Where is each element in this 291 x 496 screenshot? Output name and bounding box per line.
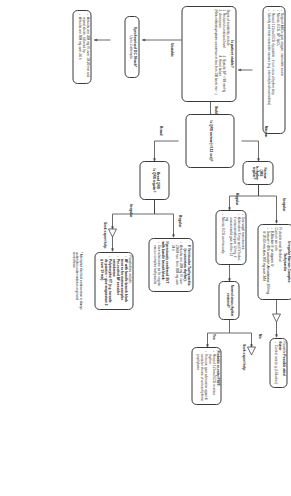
box-irregular-narrow-complex: Irregular Narrow Complex Tachycardia Pro… xyxy=(257,224,291,300)
tachycardia-algorithm: Support ABCs: give oxygen; cannulate a v… xyxy=(0,0,291,496)
vt-drug-list: Amiodarone 300 mg IV over 20-60 min; the… xyxy=(169,242,181,289)
list-item: Give adenosine as for regular narrow com… xyxy=(151,245,159,289)
cardioversion-footnote: * Attempted electrical cardioversion is … xyxy=(70,252,81,310)
box-is-patient-stable: Is patient stable? Signs of instability … xyxy=(181,6,236,102)
list-item: Identify and treat reversible causes (e.… xyxy=(265,13,269,131)
inct-list: β-Blocker IV or digoxin IV If onset < 48… xyxy=(260,228,272,297)
vt-secondary-list: Give adenosine as for regular narrow com… xyxy=(151,242,159,289)
edge-label-yes: Yes xyxy=(211,334,215,340)
edge-label-no: No xyxy=(257,334,261,338)
edge-label-irregular-broad: Irregular xyxy=(128,204,132,217)
possibility-text-1: AF with bundle branch block treat as for… xyxy=(119,259,127,302)
dc-shock-subtitle: Up to 3 attempts xyxy=(127,20,131,75)
narrow-qrs-title-line2: Is rhythm regular? xyxy=(250,165,258,182)
box-synchronised-dc-shock: Synchronised DC Shock* Up to 3 attempts xyxy=(124,16,139,78)
sinus-restored-title: Normal sinus rhythm restored? xyxy=(225,285,233,317)
box-sinus-rhythm-restored: Normal sinus rhythm restored? xyxy=(218,281,239,320)
box-broad-irregular-possibilities: Possibilities include: AF with bundle br… xyxy=(94,252,133,310)
box-narrow-qrs: Narrow QRS Is rhythm regular? xyxy=(242,161,273,185)
vagal-list: Use vagal manoeuvres Adenosine 6 mg rapi… xyxy=(219,214,243,262)
flutter-title-text: Possible atrial flutter xyxy=(277,342,285,376)
list-item: Amiodarone 900 mg over 24 h xyxy=(76,17,80,81)
patient-stable-title: Is patient stable? xyxy=(229,10,233,99)
box-ventricular-tachycardia: If Ventricular Tachycardia (or uncertain… xyxy=(148,238,193,292)
inct-item-1: β-Blocker IV or digoxin IV xyxy=(269,231,273,267)
possibilities-list: AF with bundle branch block treat as for… xyxy=(98,256,126,307)
qrs-narrow-title: Is QRS narrow (<0.12 sec)? xyxy=(208,121,212,162)
broad-qrs-title-line2: Is QRS regular? xyxy=(150,169,154,193)
inct-item-2: If onset < 48 h consider: Amiodarone 300… xyxy=(261,231,269,294)
shock-drug-list: Amiodarone 300 mg IV over 10-20 min and … xyxy=(76,14,88,81)
edge-label-regular-broad: Regular xyxy=(177,215,181,227)
possibility-text-2: Pre-excited AF consider amiodarone xyxy=(111,259,119,295)
edge-label-irregular-narrow: Irregular xyxy=(281,198,285,211)
connector-lines xyxy=(0,0,291,496)
list-item: Amiodarone 300 mg IV over 20-60 min; the… xyxy=(169,245,181,289)
dc-shock-title: Synchronised DC Shock* xyxy=(132,20,136,75)
expert-help-label-narrow: Seek expert help xyxy=(241,344,245,370)
list-item: Monitor ECG continuously xyxy=(219,217,223,262)
flowchart-viewport: Support ABCs: give oxygen; cannulate a v… xyxy=(0,0,291,496)
edge-label-narrow: Narrow xyxy=(263,126,267,137)
box-vagal-manoeuvres: Use vagal manoeuvres Adenosine 6 mg rapi… xyxy=(215,210,246,265)
box-shock-drugs: Amiodarone 300 mg IV over 10-20 min and … xyxy=(73,10,92,84)
inct-title-line2: Tachycardia xyxy=(281,228,285,297)
edge-label-regular-narrow: Regular xyxy=(234,193,238,205)
psvt-list: Record 12-lead ECG in sinus rhythm If re… xyxy=(194,351,214,402)
list-item: If recurs, give adenosine again & consid… xyxy=(194,354,206,402)
list-item: If onset < 48 h consider: Amiodarone 300… xyxy=(260,231,268,297)
possibility-text-3: Polymorphic VT (e.g. torsade de pointes … xyxy=(99,259,111,306)
box-initial-assessment: Support ABCs: give oxygen; cannulate a v… xyxy=(262,6,285,134)
box-atrial-flutter: Possible Possible atrial flutter Control… xyxy=(269,338,287,388)
patient-stable-footnote: (Rate-related symptoms uncommon at less … xyxy=(212,10,216,99)
list-item: Polymorphic VT (e.g. torsade de pointes … xyxy=(98,259,110,307)
list-item: Control rate (e.g. β-Blocker) xyxy=(272,345,276,385)
edge-label-unstable: Unstable xyxy=(169,43,173,57)
initial-assessment-list: Support ABCs: give oxygen; cannulate a v… xyxy=(265,10,282,131)
edge-label-broad: Broad xyxy=(158,126,162,136)
list-item: Adenosine 6 mg rapid IV bolus; if unsucc… xyxy=(223,217,239,262)
vt-title-line1: If Ventricular Tachycardia xyxy=(186,242,190,289)
box-psvt: Probable re-entry PSVT: Record 12-lead E… xyxy=(191,347,221,405)
box-broad-qrs: Broad QRS Is QRS regular? xyxy=(139,161,169,200)
flowchart-canvas: Support ABCs: give oxygen; cannulate a v… xyxy=(0,0,291,496)
narrow-qrs-title-line1: Narrow QRS xyxy=(258,165,266,182)
flutter-list: Control rate (e.g. β-Blocker) xyxy=(272,342,276,385)
expert-help-label-broad: Seek expert help xyxy=(102,222,106,248)
box-is-qrs-narrow: Is QRS narrow (<0.12 sec)? xyxy=(185,114,234,168)
inct-title-line1: Irregular Narrow Complex xyxy=(286,228,290,297)
